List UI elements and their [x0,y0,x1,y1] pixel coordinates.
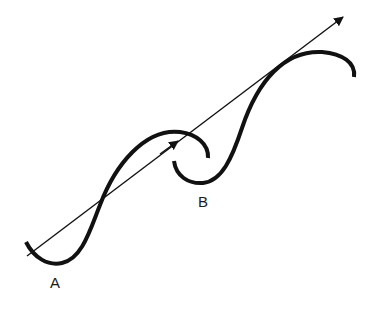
arrow-line [27,17,343,256]
curve-a [26,132,208,264]
diagram-canvas [0,0,376,309]
curve-b [174,52,354,183]
label-a: A [50,274,60,291]
mid-arrowhead-icon [160,141,178,154]
label-b: B [198,193,208,210]
